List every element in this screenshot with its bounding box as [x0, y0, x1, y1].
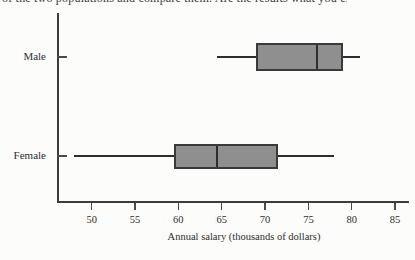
x-tick-label: 75 [303, 214, 314, 225]
x-tick-label: 60 [173, 214, 184, 225]
x-tick-label: 70 [260, 214, 271, 225]
x-axis-title: Annual salary (thousands of dollars) [168, 231, 321, 242]
iqr-box [256, 43, 343, 71]
x-tick-mark [221, 203, 223, 210]
x-tick-label: 55 [130, 214, 141, 225]
category-tick-mark [57, 56, 67, 58]
x-tick-label: 50 [86, 214, 97, 225]
textbook-figure: of the two populations and compare them.… [0, 0, 415, 260]
y-axis-line [57, 13, 59, 203]
whisker-right [278, 155, 334, 157]
median-line [216, 146, 218, 167]
x-tick-mark [351, 203, 353, 210]
x-tick-label: 85 [390, 214, 401, 225]
median-line [316, 45, 318, 69]
whisker-left [217, 56, 256, 58]
x-tick-mark [308, 203, 310, 210]
boxplot-chart: Annual salary (thousands of dollars) 505… [0, 0, 415, 260]
x-tick-label: 65 [216, 214, 227, 225]
iqr-box [174, 144, 278, 169]
x-tick-mark [134, 203, 136, 210]
x-tick-mark [394, 203, 396, 210]
category-label: Male [0, 50, 46, 62]
x-tick-mark [178, 203, 180, 210]
category-label: Female [0, 149, 46, 161]
whisker-left [74, 155, 174, 157]
x-tick-label: 80 [346, 214, 357, 225]
x-tick-mark [91, 203, 93, 210]
category-tick-mark [57, 155, 67, 157]
x-axis-line [57, 201, 409, 203]
whisker-right [343, 56, 360, 58]
x-tick-mark [264, 203, 266, 210]
